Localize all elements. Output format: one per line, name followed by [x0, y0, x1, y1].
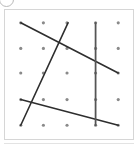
grid-dot	[42, 98, 45, 101]
grid-dot-layer	[19, 21, 120, 127]
cropped-circle-marker	[0, 0, 14, 7]
line-segment-layer	[21, 23, 118, 125]
grid-dot	[42, 124, 45, 127]
grid-dot	[117, 98, 120, 101]
grid-dot	[19, 71, 22, 74]
grid-dot	[117, 47, 120, 50]
grid-dot	[65, 98, 68, 101]
grid-dot	[65, 71, 68, 74]
descending-diagonal	[21, 23, 118, 73]
figure-root	[0, 0, 138, 146]
grid-dot	[42, 21, 45, 24]
dot-grid-figure-frame	[4, 9, 134, 140]
grid-dot	[65, 124, 68, 127]
grid-dot	[117, 21, 120, 24]
baseline-rule	[4, 143, 134, 144]
grid-dot	[42, 47, 45, 50]
shallow-descending-line	[21, 100, 118, 126]
dot-grid-canvas	[5, 10, 133, 139]
grid-dot	[19, 47, 22, 50]
